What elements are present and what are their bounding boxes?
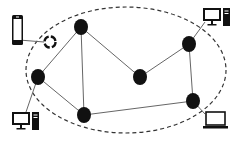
edge-n2-n5 — [38, 77, 84, 115]
network-node-n4 — [182, 36, 196, 52]
dashed-boundary-ellipse — [26, 7, 226, 133]
edge-n1-n2 — [38, 27, 81, 77]
desktop-computer-icon — [12, 112, 39, 130]
smartphone-icon — [12, 15, 23, 45]
device-links — [19, 22, 205, 114]
sync-icon — [45, 37, 56, 48]
edge-n3-n4 — [140, 44, 189, 77]
edge-n5-n6 — [84, 101, 193, 115]
network-boundary — [26, 7, 226, 133]
nodes — [31, 19, 200, 123]
desktop-computer-icon — [203, 8, 230, 26]
network-node-n2 — [31, 69, 45, 85]
laptop-icon — [203, 112, 228, 129]
network-diagram — [0, 0, 234, 141]
network-node-n1 — [74, 19, 88, 35]
network-node-n6 — [186, 93, 200, 109]
edges — [38, 27, 193, 115]
edge-n1-n3 — [81, 27, 140, 77]
network-node-n5 — [77, 107, 91, 123]
network-node-n3 — [133, 69, 147, 85]
edge-n4-n6 — [189, 44, 193, 101]
edge-n1-n5 — [81, 27, 84, 115]
